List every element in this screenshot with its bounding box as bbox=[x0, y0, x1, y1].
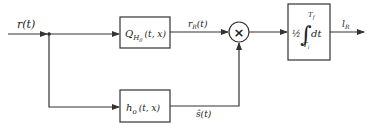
multiply-icon: × bbox=[234, 25, 245, 40]
bottom-block-h: ho(t, x) bbox=[120, 90, 170, 122]
block-diagram: r(t) QH0(t, x) ho(t, x) rR(t) ŝ(t) × ½ ∫ bbox=[0, 0, 373, 130]
top-signal-label: rR(t) bbox=[188, 19, 208, 30]
bottom-branch-line bbox=[49, 34, 119, 107]
input-label: r(t) bbox=[17, 18, 35, 31]
bottom-signal-line bbox=[170, 43, 239, 106]
top-block-q: QH0(t, x) bbox=[120, 17, 170, 48]
input-signal: r(t) bbox=[8, 18, 47, 34]
multiplier-node: × bbox=[229, 22, 249, 42]
svg-text:dt: dt bbox=[311, 28, 322, 39]
bottom-signal-label: ŝ(t) bbox=[196, 109, 212, 119]
output-label: lR bbox=[342, 19, 350, 30]
integrator-block: ½ ∫ Tf Ti dt bbox=[288, 4, 330, 60]
